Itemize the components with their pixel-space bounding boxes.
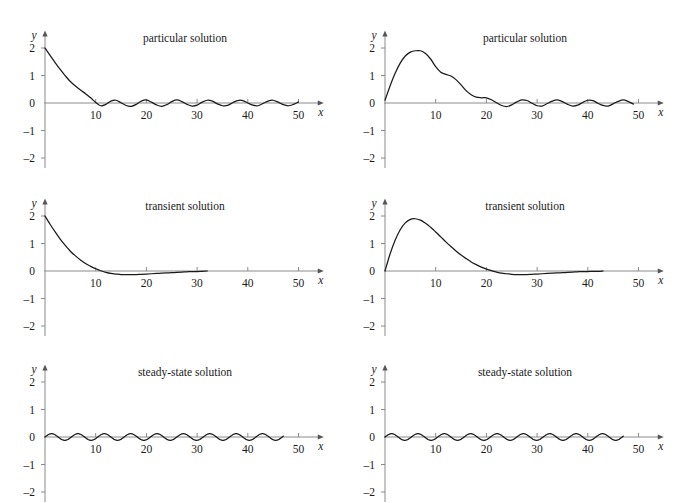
plot-panel-particular-solution-top-left: yx1020304050210–1–2particular solution: [0, 0, 340, 168]
y-axis-tick-label: –2: [363, 152, 376, 164]
curve-transient-solution: [385, 219, 603, 275]
y-axis-tick-label: 1: [29, 70, 35, 82]
x-axis-tick-label: 40: [242, 277, 254, 289]
x-axis-tick-label: 40: [582, 109, 594, 121]
plot-panel-particular-solution-top-right: yx1020304050210–1–2particular solution: [340, 0, 680, 168]
plot-panel-transient-solution-right: yx1020304050210–1–2transient solution: [340, 168, 680, 336]
y-axis-arrow-icon: [382, 199, 387, 205]
plot-title: particular solution: [483, 32, 567, 45]
x-axis-tick-label: 10: [90, 109, 102, 121]
y-axis-tick-label: 0: [29, 431, 35, 443]
x-axis-tick-label: 30: [191, 109, 203, 121]
curve-particular-solution: [45, 48, 299, 106]
x-axis-tick-label: 40: [582, 277, 594, 289]
y-axis-tick-label: –1: [23, 459, 36, 471]
y-axis-tick-label: 2: [369, 376, 375, 388]
x-axis-tick-label: 10: [430, 443, 442, 455]
y-axis-label: y: [30, 363, 37, 376]
x-axis-tick-label: 20: [141, 109, 153, 121]
x-axis-tick-label: 20: [481, 443, 493, 455]
y-axis-label: y: [370, 197, 377, 210]
y-axis-tick-label: 1: [369, 70, 375, 82]
x-axis-tick-label: 10: [430, 277, 442, 289]
x-axis-arrow-icon: [658, 434, 664, 439]
x-axis-tick-label: 10: [90, 443, 102, 455]
y-axis-arrow-icon: [42, 31, 47, 37]
plot-title: transient solution: [145, 200, 225, 212]
plot-panel-steady-state-solution-left: yx1020304050210–1–2steady-state solution: [0, 334, 340, 502]
x-axis-arrow-icon: [658, 100, 664, 105]
x-axis-tick-label: 30: [191, 277, 203, 289]
plot-title: transient solution: [485, 200, 565, 212]
x-axis-tick-label: 40: [582, 443, 594, 455]
x-axis-label: x: [657, 440, 664, 452]
y-axis-tick-label: –1: [363, 293, 376, 305]
y-axis-tick-label: –2: [363, 320, 376, 332]
y-axis-tick-label: 0: [369, 97, 375, 109]
figure-six-solution-plots: yx1020304050210–1–2particular solution y…: [0, 0, 681, 503]
plot-title: steady-state solution: [138, 366, 232, 379]
curve-particular-solution: [385, 50, 633, 106]
y-axis-tick-label: 2: [369, 42, 375, 54]
x-axis-tick-label: 50: [293, 109, 305, 121]
y-axis-arrow-icon: [42, 199, 47, 205]
y-axis-tick-label: –1: [23, 125, 36, 137]
plot-title: steady-state solution: [478, 366, 572, 379]
x-axis-tick-label: 30: [531, 443, 543, 455]
y-axis-tick-label: 1: [369, 404, 375, 416]
x-axis-label: x: [317, 106, 324, 118]
x-axis-tick-label: 50: [293, 277, 305, 289]
x-axis-tick-label: 50: [633, 443, 645, 455]
y-axis-tick-label: –1: [363, 459, 376, 471]
x-axis-arrow-icon: [318, 268, 324, 273]
y-axis-tick-label: 2: [29, 210, 35, 222]
curve-transient-solution: [45, 216, 207, 275]
y-axis-label: y: [370, 29, 377, 42]
y-axis-arrow-icon: [382, 31, 387, 37]
x-axis-tick-label: 50: [633, 109, 645, 121]
x-axis-tick-label: 40: [242, 109, 254, 121]
x-axis-arrow-icon: [318, 434, 324, 439]
y-axis-tick-label: 2: [369, 210, 375, 222]
y-axis-tick-label: 1: [29, 404, 35, 416]
x-axis-label: x: [657, 274, 664, 286]
x-axis-tick-label: 20: [141, 277, 153, 289]
y-axis-tick-label: 1: [369, 238, 375, 250]
x-axis-tick-label: 40: [242, 443, 254, 455]
y-axis-tick-label: 2: [29, 376, 35, 388]
y-axis-tick-label: –1: [23, 293, 36, 305]
x-axis-tick-label: 30: [191, 443, 203, 455]
y-axis-label: y: [370, 363, 377, 376]
x-axis-tick-label: 30: [531, 277, 543, 289]
y-axis-label: y: [30, 197, 37, 210]
x-axis-tick-label: 10: [90, 277, 102, 289]
x-axis-tick-label: 50: [633, 277, 645, 289]
y-axis-tick-label: –2: [23, 152, 36, 164]
x-axis-tick-label: 10: [430, 109, 442, 121]
y-axis-tick-label: 0: [29, 265, 35, 277]
y-axis-tick-label: 0: [369, 431, 375, 443]
y-axis-tick-label: 0: [29, 97, 35, 109]
y-axis-arrow-icon: [382, 365, 387, 371]
x-axis-tick-label: 30: [531, 109, 543, 121]
plot-panel-transient-solution-left: yx1020304050210–1–2transient solution: [0, 168, 340, 336]
plot-title: particular solution: [143, 32, 227, 45]
y-axis-tick-label: –2: [23, 486, 36, 498]
plot-panel-steady-state-solution-right: yx1020304050210–1–2steady-state solution: [340, 334, 680, 502]
x-axis-arrow-icon: [318, 100, 324, 105]
y-axis-arrow-icon: [42, 365, 47, 371]
x-axis-tick-label: 50: [293, 443, 305, 455]
x-axis-tick-label: 20: [481, 277, 493, 289]
x-axis-arrow-icon: [658, 268, 664, 273]
y-axis-tick-label: –1: [363, 125, 376, 137]
y-axis-tick-label: 1: [29, 238, 35, 250]
y-axis-tick-label: 0: [369, 265, 375, 277]
x-axis-label: x: [317, 274, 324, 286]
x-axis-label: x: [657, 106, 664, 118]
y-axis-tick-label: 2: [29, 42, 35, 54]
y-axis-tick-label: –2: [363, 486, 376, 498]
x-axis-tick-label: 20: [481, 109, 493, 121]
y-axis-tick-label: –2: [23, 320, 36, 332]
y-axis-label: y: [30, 29, 37, 42]
x-axis-tick-label: 20: [141, 443, 153, 455]
